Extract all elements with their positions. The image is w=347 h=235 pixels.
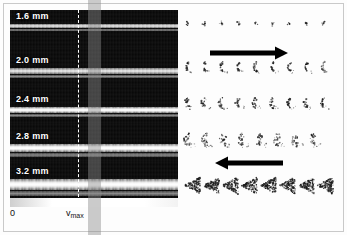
particle-pattern-glyph — [284, 15, 295, 33]
flow-arrow-right — [210, 46, 288, 60]
particle-pattern-glyph — [182, 15, 193, 33]
particle-pattern-glyph — [258, 176, 277, 199]
particle-pattern-glyph — [216, 96, 230, 114]
particle-pattern-glyph — [301, 15, 312, 33]
spectrogram-stack: 1.6 mm2.0 mm2.4 mm2.8 mm3.2 mm — [10, 10, 178, 200]
particle-pattern-glyph — [250, 15, 261, 33]
spectrogram-velocity-band — [10, 179, 178, 190]
particle-pattern-glyph — [308, 132, 324, 152]
particle-pattern-glyph — [233, 96, 247, 114]
spectrogram-velocity-band — [10, 107, 178, 113]
particle-pattern-glyph — [220, 176, 239, 199]
particle-pattern-glyph — [182, 176, 201, 199]
particle-pattern-glyph — [233, 15, 244, 33]
particle-pattern-glyph — [199, 60, 213, 78]
particle-pattern-glyph — [301, 60, 315, 78]
spectrogram-secondary-band — [10, 191, 178, 196]
spectrogram-secondary-band — [10, 153, 178, 157]
particle-pattern-glyph — [250, 96, 264, 114]
particle-pattern-glyph — [267, 60, 281, 78]
particle-pattern-glyph — [318, 96, 332, 114]
particle-pattern-glyph — [267, 96, 281, 114]
spectrogram-depth-label: 2.4 mm — [16, 94, 49, 104]
particle-pattern-glyph — [236, 132, 252, 152]
particle-pattern-glyph — [277, 176, 296, 199]
particle-pattern-glyph — [182, 96, 196, 114]
glyph-row-4 — [182, 134, 340, 150]
spectrogram-velocity-band — [10, 68, 178, 74]
particle-pattern-glyph — [284, 96, 298, 114]
glyph-panel — [182, 10, 340, 208]
spectrogram-strip: 2.4 mm — [10, 86, 178, 124]
spectrogram-depth-label: 2.8 mm — [16, 131, 49, 141]
particle-pattern-glyph — [315, 176, 334, 199]
particle-pattern-glyph — [199, 96, 213, 114]
particle-pattern-glyph — [301, 96, 315, 114]
spectrogram-secondary-band — [10, 75, 178, 78]
particle-pattern-glyph — [216, 15, 227, 33]
particle-pattern-glyph — [201, 176, 220, 199]
spectrogram-strip: 2.0 mm — [10, 48, 178, 86]
particle-pattern-glyph — [296, 176, 315, 199]
particle-pattern-glyph — [250, 60, 264, 78]
particle-pattern-glyph — [216, 60, 230, 78]
spectrogram-strip: 1.6 mm — [10, 10, 178, 48]
figure-root: 1.6 mm2.0 mm2.4 mm2.8 mm3.2 mm 0 vmax — [0, 0, 347, 235]
particle-pattern-glyph — [233, 60, 247, 78]
glyph-row-3 — [182, 98, 340, 112]
particle-pattern-glyph — [290, 132, 306, 152]
particle-pattern-glyph — [272, 132, 288, 152]
particle-pattern-glyph — [182, 132, 198, 152]
spectrogram-noise-overlay — [10, 86, 178, 124]
spectrogram-velocity-band — [10, 24, 178, 28]
axis-tick-vmax-subscript: max — [71, 212, 84, 219]
spectrogram-strip: 3.2 mm — [10, 162, 178, 200]
spectrogram-secondary-band — [10, 114, 178, 117]
particle-pattern-glyph — [199, 15, 210, 33]
vmax-dashed-line — [78, 10, 79, 202]
glyph-row-1 — [182, 18, 340, 29]
glyph-row-2 — [182, 62, 340, 76]
particle-pattern-glyph — [318, 15, 329, 33]
particle-pattern-glyph — [239, 176, 258, 199]
spectrogram-depth-label: 1.6 mm — [16, 11, 49, 21]
velocity-axis-bar — [10, 198, 178, 207]
axis-tick-label-zero: 0 — [10, 208, 15, 218]
particle-pattern-glyph — [254, 132, 270, 152]
axis-tick-label-vmax: vmax — [66, 208, 84, 218]
flow-arrow-left — [215, 156, 283, 170]
glyph-row-5 — [182, 178, 340, 197]
particle-pattern-glyph — [200, 132, 216, 152]
spectrogram-secondary-band — [10, 29, 178, 31]
spectrogram-depth-label: 3.2 mm — [16, 166, 49, 176]
particle-pattern-glyph — [267, 15, 278, 33]
particle-pattern-glyph — [284, 60, 298, 78]
axis-tick-vmax-symbol: v — [66, 208, 71, 218]
spectrogram-velocity-band — [10, 144, 178, 152]
particle-pattern-glyph — [218, 132, 234, 152]
particle-pattern-glyph — [182, 60, 196, 78]
spectrogram-depth-label: 2.0 mm — [16, 55, 49, 65]
particle-pattern-glyph — [318, 60, 332, 78]
spectrogram-strip: 2.8 mm — [10, 124, 178, 162]
